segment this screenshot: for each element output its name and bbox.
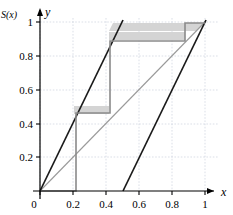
y-axis-name: y xyxy=(44,5,51,19)
y-tick-label-04: 0.4 xyxy=(19,118,33,130)
function-label: S(x) xyxy=(1,9,18,21)
x-tick-label-3: 0.6 xyxy=(132,198,146,210)
y-tick-label-02: 0.2 xyxy=(19,151,33,163)
x-tick-label-2: 0.4 xyxy=(99,198,113,210)
x-tick-label-1: 0.2 xyxy=(66,198,80,210)
y-tick-label-06: 0.6 xyxy=(19,84,33,96)
x-axis-name: x xyxy=(220,185,227,199)
upper-step-band xyxy=(109,23,205,31)
y-tick-label-08: 0.8 xyxy=(19,50,33,62)
y-tick-label-1: 1 xyxy=(28,16,34,28)
x-tick-label-0: 0 xyxy=(31,198,37,210)
x-tick-label-4: 0.8 xyxy=(165,198,179,210)
mid-step-band xyxy=(109,32,185,40)
plot-figure: 0 0.2 0.4 0.6 0.8 1 1 0.8 0.6 0.4 0.2 y … xyxy=(0,0,233,215)
x-tick-label-5: 1 xyxy=(202,198,208,210)
